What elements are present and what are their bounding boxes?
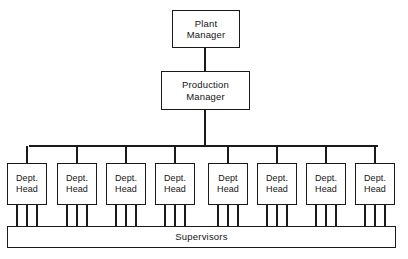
node-dept-head-3: Dept.Head — [106, 163, 146, 205]
node-dept-head-7: Dept.Head — [306, 163, 346, 205]
dept-head-line-1: Dept. — [315, 173, 337, 184]
production-manager-line-2: Manager — [186, 91, 225, 102]
org-chart-diagram: Plant Manager Production Manager Dept.He… — [0, 0, 408, 259]
dept-head-line-2: Head — [115, 184, 137, 195]
node-plant-manager: Plant Manager — [172, 10, 240, 48]
dept-head-line-1: Dept — [218, 173, 237, 184]
node-dept-head-2: Dept.Head — [57, 163, 97, 205]
node-dept-head-4: Dept.Head — [155, 163, 195, 205]
dept-head-line-1: Dept. — [16, 173, 38, 184]
node-dept-head-5: DeptHead — [208, 163, 248, 205]
dept-head-line-1: Dept. — [364, 173, 386, 184]
dept-head-line-1: Dept. — [266, 173, 288, 184]
node-production-manager: Production Manager — [161, 71, 250, 110]
node-dept-head-6: Dept.Head — [257, 163, 297, 205]
plant-manager-line-2: Manager — [187, 29, 226, 40]
node-dept-head-1: Dept.Head — [7, 163, 47, 205]
dept-head-line-2: Head — [217, 184, 239, 195]
dept-head-line-2: Head — [315, 184, 337, 195]
dept-head-line-1: Dept. — [66, 173, 88, 184]
production-manager-line-1: Production — [182, 79, 229, 90]
dept-head-line-2: Head — [16, 184, 38, 195]
dept-head-line-2: Head — [364, 184, 386, 195]
plant-manager-line-1: Plant — [195, 18, 217, 29]
dept-head-line-2: Head — [66, 184, 88, 195]
node-supervisors-bar: Supervisors — [7, 226, 396, 248]
dept-head-line-1: Dept. — [115, 173, 137, 184]
dept-head-line-2: Head — [164, 184, 186, 195]
node-dept-head-8: Dept.Head — [355, 163, 395, 205]
dept-head-line-1: Dept. — [164, 173, 186, 184]
dept-head-line-2: Head — [266, 184, 288, 195]
supervisors-label: Supervisors — [175, 231, 227, 242]
